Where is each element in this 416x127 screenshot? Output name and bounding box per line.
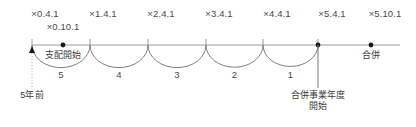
timeline-start-marker	[29, 46, 35, 53]
diagram-canvas	[0, 0, 416, 127]
period-arc-3	[148, 45, 206, 68]
five-years-ago-label: 5年前	[20, 90, 43, 101]
merger-dot	[369, 43, 374, 48]
date-label-0: ×0.4.1	[31, 9, 58, 19]
period-number-1: 1	[288, 70, 293, 80]
date-label-4: ×3.4.1	[205, 9, 232, 19]
merger-label: 合併	[362, 50, 380, 61]
control-start-label: 支配開始	[45, 50, 81, 61]
timeline-diagram: ×0.4.1 ×0.10.1 ×1.4.1 ×2.4.1 ×3.4.1 ×4.4…	[0, 0, 416, 127]
merger-fiscal-year-start-label: 合併事業年度 開始	[291, 90, 346, 112]
date-label-7: ×5.10.1	[369, 9, 402, 19]
period-number-4: 4	[116, 70, 121, 80]
period-arc-4	[90, 45, 148, 68]
period-number-5: 5	[58, 70, 63, 80]
merger-fiscal-year-start-line1: 合併事業年度	[291, 90, 346, 101]
date-label-5: ×4.4.1	[263, 9, 290, 19]
control-start-dot	[61, 43, 66, 48]
date-label-2: ×1.4.1	[89, 9, 116, 19]
period-arc-1	[263, 45, 318, 66]
period-number-2: 2	[232, 70, 237, 80]
date-label-3: ×2.4.1	[147, 9, 174, 19]
merger-fiscal-year-start-line2: 開始	[291, 101, 346, 112]
period-arc-2	[206, 45, 263, 67]
date-label-6: ×5.4.1	[318, 9, 345, 19]
period-number-3: 3	[174, 70, 179, 80]
date-label-1: ×0.10.1	[47, 22, 80, 32]
